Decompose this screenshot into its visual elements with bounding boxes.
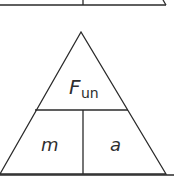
main-triangle: F un m a xyxy=(0,32,174,175)
top-label-main: F xyxy=(69,75,81,99)
previous-triangle-bottom xyxy=(0,0,166,5)
bottom-left-label: m xyxy=(41,134,59,155)
bottom-right-label: a xyxy=(110,134,121,155)
formula-triangle-diagram: F un m a xyxy=(0,0,174,177)
top-label-subscript: un xyxy=(81,85,99,101)
